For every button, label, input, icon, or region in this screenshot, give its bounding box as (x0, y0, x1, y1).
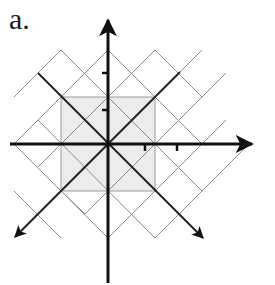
origin-point (106, 142, 111, 147)
coordinate-diagram (0, 0, 275, 285)
